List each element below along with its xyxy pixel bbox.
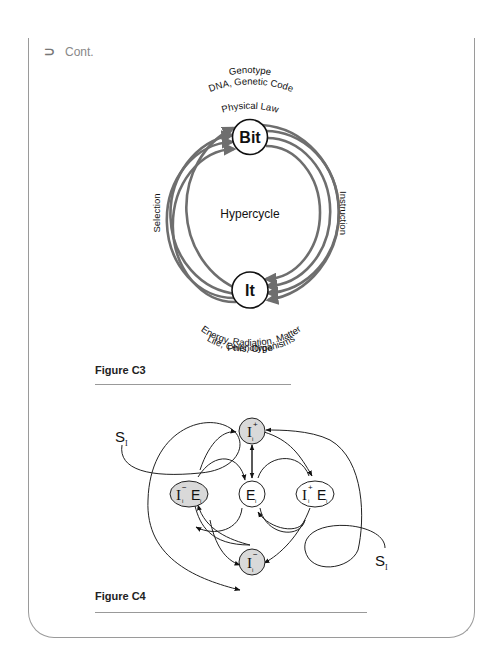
genotype-label: Genotype xyxy=(228,64,272,77)
figure-c3-caption: Figure C3 xyxy=(95,364,146,376)
bit-label: Bit xyxy=(239,129,261,146)
instruction-label: Instruction xyxy=(338,191,349,235)
hypercycle-diagram: Bit It Hypercycle Selection Instruction … xyxy=(0,0,500,400)
it-node: It xyxy=(232,272,268,308)
physical-law-label: Physical Law xyxy=(220,100,280,115)
figure-c4-rule xyxy=(95,612,367,613)
it-label: It xyxy=(245,282,255,299)
figure-c4-caption: Figure C4 xyxy=(95,590,146,602)
figure-c3-rule xyxy=(95,384,291,385)
hypercycle-label: Hypercycle xyxy=(220,207,280,221)
bit-node: Bit xyxy=(233,120,268,155)
dna-genetic-code-label: DNA, Genetic Code xyxy=(207,75,295,93)
selection-label: Selection xyxy=(151,193,162,232)
phenotype-label: Phenotype xyxy=(227,342,272,353)
